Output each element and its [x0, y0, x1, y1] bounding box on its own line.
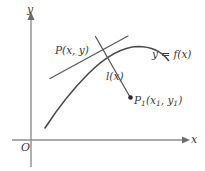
origin-label: O [21, 142, 30, 153]
linear-function-line [96, 37, 131, 98]
point-p1-mid: , y [161, 94, 174, 106]
x-axis-label: x [191, 134, 197, 145]
line-l-label: l(x) [106, 71, 123, 82]
figure-canvas [0, 0, 205, 171]
function-curve [45, 47, 169, 129]
point-p1-label: P1(x1, y1) [134, 95, 182, 108]
point-p1-marker [128, 95, 133, 100]
y-axis-label: y [27, 4, 33, 15]
point-p-label: P(x, y) [55, 45, 89, 56]
x-axis-arrowhead [182, 136, 190, 143]
point-p1-open: (x [146, 94, 156, 106]
point-p-args: (x, y) [62, 44, 89, 56]
curve-equation-label: y = f(x) [152, 49, 191, 60]
figure-container: y x O P(x, y) y = f(x) l(x) P1(x1, y1) [0, 0, 205, 171]
point-p1-close: ) [178, 94, 182, 106]
